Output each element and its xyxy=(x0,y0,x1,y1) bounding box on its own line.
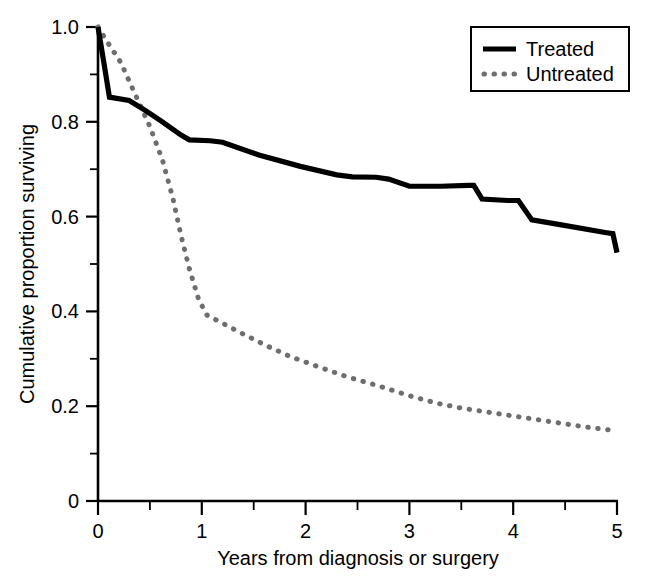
survival-chart-figure: 00.20.40.60.81.0 012345 Years from diagn… xyxy=(0,0,649,582)
y-axis-ticks xyxy=(86,27,98,501)
y-tick-label: 0.4 xyxy=(51,300,79,322)
x-axis-title: Years from diagnosis or surgery xyxy=(217,547,499,569)
y-tick-label: 1.0 xyxy=(51,16,79,38)
y-tick-label: 0.8 xyxy=(51,111,79,133)
x-tick-label: 2 xyxy=(300,520,311,542)
legend-label-untreated: Untreated xyxy=(526,63,614,85)
x-tick-label: 4 xyxy=(508,520,519,542)
legend-label-treated: Treated xyxy=(526,38,594,60)
x-tick-label: 1 xyxy=(196,520,207,542)
y-tick-label: 0.6 xyxy=(51,206,79,228)
chart-legend[interactable]: Treated Untreated xyxy=(471,27,629,91)
x-tick-label: 3 xyxy=(404,520,415,542)
y-axis-title: Cumulative proportion surviving xyxy=(16,124,38,404)
y-tick-label: 0.2 xyxy=(51,395,79,417)
x-axis-ticks xyxy=(98,501,617,515)
y-tick-label: 0 xyxy=(68,490,79,512)
x-tick-label: 5 xyxy=(611,520,622,542)
x-tick-label: 0 xyxy=(92,520,103,542)
chart-canvas: 00.20.40.60.81.0 012345 Years from diagn… xyxy=(0,0,649,582)
y-axis-tick-labels: 00.20.40.60.81.0 xyxy=(51,16,79,512)
x-axis-tick-labels: 012345 xyxy=(92,520,622,542)
